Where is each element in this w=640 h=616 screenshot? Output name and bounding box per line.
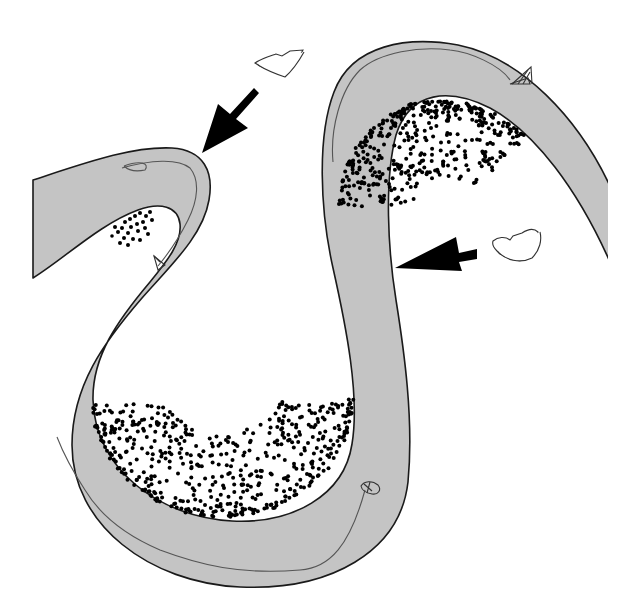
arrow-erosion-right-icon (395, 237, 477, 271)
debris-left-icon (255, 50, 304, 77)
channel-water-band (33, 42, 610, 588)
arrow-erosion-left-icon (202, 88, 259, 153)
debris-right-icon (493, 229, 541, 260)
meander-figure (0, 0, 640, 616)
meander-diagram: meandering river channel (0, 0, 640, 616)
